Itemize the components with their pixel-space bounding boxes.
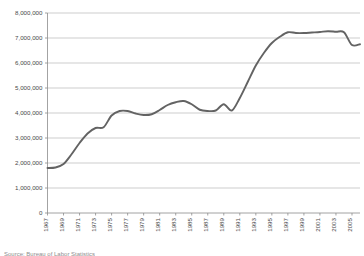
x-tick-label: 1975 bbox=[106, 217, 113, 231]
y-tick-label: 1,000,000 bbox=[15, 184, 43, 191]
y-tick-label: 5,000,000 bbox=[15, 84, 43, 91]
x-tick-label: 1967 bbox=[42, 217, 49, 231]
chart-canvas: 01,000,0002,000,0003,000,0004,000,0005,0… bbox=[0, 0, 364, 256]
x-tick-label: 1985 bbox=[186, 217, 193, 231]
x-tick-label: 1997 bbox=[282, 217, 289, 231]
x-tick-label: 1993 bbox=[250, 217, 257, 231]
x-tick-label: 1979 bbox=[138, 217, 145, 231]
y-tick-label: 4,000,000 bbox=[15, 109, 43, 116]
y-tick-label: 2,000,000 bbox=[15, 159, 43, 166]
x-tick-label: 1989 bbox=[218, 217, 225, 231]
line-chart: 01,000,0002,000,0003,000,0004,000,0005,0… bbox=[0, 0, 364, 256]
x-tick-label: 1973 bbox=[90, 217, 97, 231]
x-tick-label: 1981 bbox=[154, 217, 161, 231]
y-tick-label: 0 bbox=[39, 209, 43, 216]
gridlines bbox=[48, 13, 361, 188]
y-tick-label: 8,000,000 bbox=[15, 9, 43, 16]
x-tick-label: 1995 bbox=[266, 217, 273, 231]
x-tick-label: 2005 bbox=[346, 217, 353, 231]
x-tick-label: 2003 bbox=[330, 217, 337, 231]
x-tick-label: 2001 bbox=[314, 217, 321, 231]
y-tick-label: 6,000,000 bbox=[15, 59, 43, 66]
y-tick-label: 7,000,000 bbox=[15, 34, 43, 41]
x-tick-label: 1983 bbox=[170, 217, 177, 231]
x-axis-tick-labels: 1967196919711973197519771979198119831985… bbox=[42, 217, 353, 231]
y-axis-tick-labels: 01,000,0002,000,0003,000,0004,000,0005,0… bbox=[15, 9, 43, 216]
x-tick-label: 1999 bbox=[298, 217, 305, 231]
source-note: Source: Bureau of Labor Statistics bbox=[4, 251, 95, 256]
x-tick-label: 1977 bbox=[122, 217, 129, 231]
x-tick-label: 1969 bbox=[58, 217, 65, 231]
y-tick-label: 3,000,000 bbox=[15, 134, 43, 141]
data-series-line bbox=[48, 31, 361, 168]
x-tick-label: 1987 bbox=[202, 217, 209, 231]
x-tick-label: 1991 bbox=[234, 217, 241, 231]
x-tick-label: 1971 bbox=[74, 217, 81, 231]
